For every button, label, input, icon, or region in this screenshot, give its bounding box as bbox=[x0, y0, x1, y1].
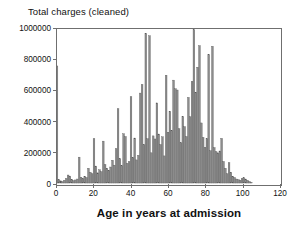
histogram-bar bbox=[236, 179, 238, 183]
x-axis-tick-mark bbox=[280, 184, 281, 188]
histogram-bar bbox=[141, 84, 143, 183]
histogram-bar bbox=[121, 166, 123, 183]
histogram-bar bbox=[154, 139, 156, 183]
histogram-bar bbox=[110, 167, 112, 183]
histogram-bar bbox=[136, 160, 138, 183]
histogram-bar bbox=[225, 168, 227, 183]
histogram-bar bbox=[178, 129, 180, 183]
histogram-bar bbox=[234, 177, 236, 183]
histogram-bar bbox=[69, 176, 71, 183]
histogram-bar bbox=[176, 90, 178, 183]
y-axis-tick-label: 800000 bbox=[24, 55, 56, 64]
histogram-bar bbox=[239, 180, 241, 183]
histogram-bar bbox=[65, 178, 67, 183]
y-axis-tick-mark bbox=[53, 28, 56, 29]
histogram-bar bbox=[99, 170, 101, 183]
y-axis-tick-mark bbox=[53, 59, 56, 60]
x-axis-tick-mark bbox=[168, 184, 169, 188]
histogram-bar bbox=[91, 174, 93, 183]
histogram-bar bbox=[193, 30, 195, 183]
x-axis-tick-mark bbox=[93, 184, 94, 188]
histogram-bar bbox=[184, 127, 186, 183]
histogram-bars bbox=[57, 29, 281, 185]
y-axis-tick-mark bbox=[53, 90, 56, 91]
histogram-bar bbox=[247, 180, 249, 183]
histogram-bar bbox=[123, 134, 125, 183]
histogram-bar bbox=[143, 145, 145, 184]
histogram-bar bbox=[156, 103, 158, 183]
y-axis-tick-mark bbox=[53, 152, 56, 153]
x-axis-tick-label: 120 bbox=[273, 189, 287, 198]
histogram-bar bbox=[162, 137, 164, 183]
y-axis-tick-label: 200000 bbox=[24, 148, 56, 157]
histogram-bar bbox=[145, 33, 147, 183]
x-axis-tick-mark bbox=[131, 184, 132, 188]
histogram-bar bbox=[119, 159, 121, 183]
histogram-bar bbox=[206, 139, 208, 183]
histogram-bar bbox=[151, 153, 153, 183]
y-axis-tick-label: 600000 bbox=[24, 86, 56, 95]
histogram-bar bbox=[78, 157, 80, 183]
histogram-bar bbox=[125, 137, 127, 184]
histogram-bar bbox=[169, 111, 171, 183]
histogram-bar bbox=[117, 109, 119, 183]
histogram-bar bbox=[134, 138, 136, 183]
y-axis-tick-label: 1000000 bbox=[19, 24, 56, 33]
histogram-bar bbox=[165, 75, 167, 183]
histogram-bar bbox=[186, 137, 188, 184]
histogram-bar bbox=[241, 178, 243, 183]
x-axis-tick-label: 80 bbox=[201, 189, 210, 198]
histogram-bar bbox=[132, 157, 134, 183]
x-axis-label: Age in years at admission bbox=[56, 207, 282, 219]
y-axis-title: Total charges (cleaned) bbox=[28, 6, 129, 17]
histogram-bar bbox=[221, 138, 223, 183]
x-axis-tick-label: 40 bbox=[126, 189, 135, 198]
x-axis-tick-mark bbox=[56, 184, 57, 188]
x-axis-tick-label: 100 bbox=[236, 189, 250, 198]
chart-figure: Total charges (cleaned) 0200000400000600… bbox=[0, 0, 293, 231]
histogram-bar bbox=[149, 36, 151, 183]
histogram-bar bbox=[158, 134, 160, 183]
histogram-bar bbox=[75, 180, 77, 183]
histogram-bar bbox=[126, 163, 128, 183]
histogram-bar bbox=[57, 66, 58, 183]
histogram-bar bbox=[195, 92, 197, 183]
histogram-bar bbox=[60, 181, 62, 183]
histogram-bar bbox=[188, 97, 190, 183]
histogram-bar bbox=[191, 81, 193, 183]
histogram-bar bbox=[249, 181, 251, 183]
histogram-bar bbox=[67, 175, 69, 183]
histogram-bar bbox=[128, 161, 130, 183]
x-axis-tick-label: 20 bbox=[89, 189, 98, 198]
histogram-bar bbox=[64, 180, 66, 183]
histogram-bar bbox=[237, 180, 239, 183]
histogram-bar bbox=[182, 116, 184, 183]
histogram-bar bbox=[212, 46, 214, 183]
histogram-bar bbox=[71, 179, 73, 183]
histogram-bar bbox=[108, 170, 110, 183]
histogram-bar bbox=[88, 168, 90, 183]
histogram-bar bbox=[245, 179, 247, 183]
histogram-bar bbox=[180, 143, 182, 183]
histogram-bar bbox=[82, 178, 84, 183]
histogram-bar bbox=[232, 176, 234, 183]
histogram-bar bbox=[250, 182, 252, 183]
histogram-bar bbox=[114, 165, 116, 183]
histogram-bar bbox=[200, 123, 202, 183]
x-axis-tick-label: 0 bbox=[54, 189, 59, 198]
x-axis-tick-label: 60 bbox=[163, 189, 172, 198]
y-axis-tick-mark bbox=[53, 121, 56, 122]
histogram-bar bbox=[243, 178, 245, 183]
histogram-bar bbox=[102, 141, 104, 183]
histogram-bar bbox=[175, 89, 177, 183]
histogram-bar bbox=[80, 177, 82, 183]
histogram-bar bbox=[86, 177, 88, 183]
histogram-bar bbox=[213, 148, 215, 183]
histogram-bar bbox=[163, 156, 165, 183]
histogram-bar bbox=[95, 166, 97, 183]
histogram-bar bbox=[223, 161, 225, 183]
histogram-bar bbox=[138, 155, 140, 183]
histogram-bar bbox=[84, 176, 86, 183]
histogram-bar bbox=[101, 172, 103, 183]
histogram-bar bbox=[197, 67, 199, 183]
